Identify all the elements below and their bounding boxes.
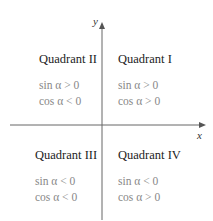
quadrant-title: Quadrant III (35, 148, 97, 163)
quadrant-title: Quadrant I (118, 52, 172, 67)
cos-condition: cos α > 0 (118, 189, 181, 205)
sin-condition: sin α > 0 (118, 77, 172, 93)
axes-diagram (0, 0, 213, 221)
sin-condition: sin α > 0 (39, 77, 97, 93)
quadrant-4: Quadrant IV sin α < 0 cos α > 0 (118, 148, 181, 205)
x-axis-label: x (197, 129, 202, 141)
x-axis-arrow-icon (199, 122, 206, 128)
y-axis-arrow-icon (99, 22, 105, 29)
quadrant-3: Quadrant III sin α < 0 cos α < 0 (35, 148, 97, 205)
cos-condition: cos α < 0 (35, 189, 97, 205)
sin-condition: sin α < 0 (118, 173, 181, 189)
cos-condition: cos α < 0 (39, 93, 97, 109)
quadrant-title: Quadrant IV (118, 148, 181, 163)
sin-condition: sin α < 0 (35, 173, 97, 189)
quadrant-1: Quadrant I sin α > 0 cos α > 0 (118, 52, 172, 109)
quadrant-2: Quadrant II sin α > 0 cos α < 0 (39, 52, 97, 109)
y-axis-label: y (93, 15, 98, 27)
cos-condition: cos α > 0 (118, 93, 172, 109)
quadrant-title: Quadrant II (39, 52, 97, 67)
